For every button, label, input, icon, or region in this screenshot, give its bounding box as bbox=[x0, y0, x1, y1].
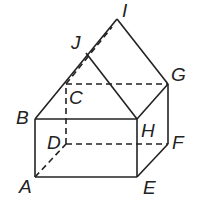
label-H: H bbox=[141, 120, 155, 141]
edge-EF bbox=[137, 144, 168, 177]
label-F: F bbox=[172, 132, 185, 153]
prism-diagram: I J G C B H D F A E bbox=[0, 0, 200, 210]
edge-JH bbox=[86, 53, 137, 119]
label-A: A bbox=[18, 176, 32, 197]
edge-IG bbox=[117, 19, 168, 84]
label-B: B bbox=[16, 107, 29, 128]
label-I: I bbox=[122, 0, 128, 21]
edge-HG bbox=[137, 84, 168, 119]
label-G: G bbox=[171, 64, 186, 85]
label-C: C bbox=[69, 87, 83, 108]
label-E: E bbox=[143, 177, 156, 198]
label-J: J bbox=[70, 32, 81, 53]
label-D: D bbox=[47, 132, 61, 153]
